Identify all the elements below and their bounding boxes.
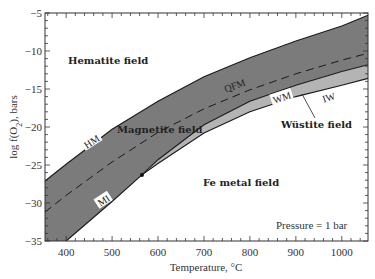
fo2-buffer-chart: 4005006007008009001000−5−10−15−20−25−30−… — [0, 0, 375, 279]
y-tick-label: −30 — [25, 197, 43, 209]
y-tick-label: −10 — [25, 45, 43, 57]
y-tick-label: −15 — [25, 83, 43, 95]
pressure-annotation: Pressure = 1 bar — [276, 219, 348, 231]
y-axis-label: log f(O2), bars — [7, 95, 24, 159]
wustite-field-label: Wüstite field — [280, 119, 352, 130]
x-tick-label: 500 — [104, 246, 121, 258]
x-tick-label: 700 — [196, 246, 213, 258]
magnetite-field-label: Magnetite field — [117, 124, 202, 135]
x-tick-label: 600 — [150, 246, 167, 258]
y-tick-label: −20 — [25, 121, 43, 133]
y-tick-label: −35 — [25, 235, 43, 247]
curve-label-iw: IW — [319, 89, 338, 105]
x-tick-label: 400 — [58, 246, 75, 258]
y-tick-label: −5 — [30, 7, 42, 19]
wustite-leader-line — [302, 94, 315, 118]
x-tick-label: 1000 — [331, 246, 354, 258]
x-tick-label: 900 — [288, 246, 305, 258]
hematite-field-label: Hematite field — [68, 55, 148, 66]
x-axis-label: Temperature, °C — [170, 261, 243, 273]
triple-point-marker — [140, 173, 144, 177]
y-tick-label: −25 — [25, 159, 43, 171]
fe-metal-field-label: Fe metal field — [203, 177, 279, 188]
x-tick-label: 800 — [242, 246, 259, 258]
